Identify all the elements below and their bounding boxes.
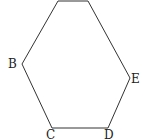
hexagon-diagram: B C D E <box>0 0 143 140</box>
vertex-label-c: C <box>46 129 55 140</box>
vertex-label-d: D <box>104 129 114 140</box>
vertex-label-b: B <box>8 58 17 70</box>
hexagon-shape <box>0 0 143 140</box>
vertex-label-e: E <box>131 73 140 85</box>
